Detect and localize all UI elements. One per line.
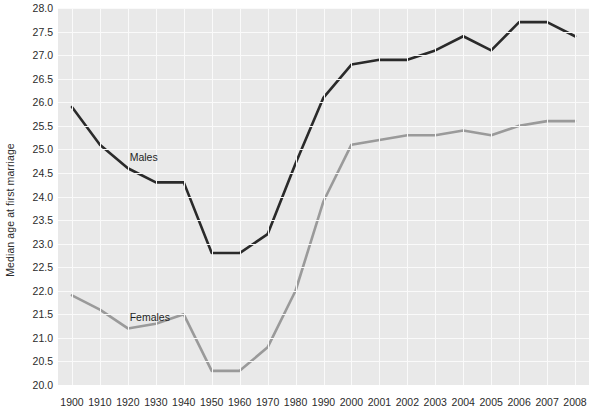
x-axis-tick-label: 1970 bbox=[256, 396, 279, 408]
y-axis-tick-labels: 28.027.527.026.526.025.525.024.524.023.5… bbox=[18, 0, 56, 420]
y-axis-tick-label: 22.5 bbox=[33, 261, 53, 273]
gridline-vertical bbox=[240, 8, 241, 385]
gridline-vertical bbox=[324, 8, 325, 385]
x-axis-tick-label: 1960 bbox=[228, 396, 251, 408]
gridline-vertical bbox=[547, 8, 548, 385]
y-axis-tick-label: 25.5 bbox=[33, 120, 53, 132]
gridline-vertical bbox=[519, 8, 520, 385]
gridline-vertical bbox=[268, 8, 269, 385]
gridline-vertical bbox=[575, 8, 576, 385]
gridline-vertical bbox=[491, 8, 492, 385]
gridline-vertical bbox=[463, 8, 464, 385]
y-axis-tick-label: 22.0 bbox=[33, 285, 53, 297]
x-axis-tick-labels: 1900191019201930194019501960197019801990… bbox=[58, 388, 589, 420]
gridline-vertical bbox=[212, 8, 213, 385]
y-axis-tick-label: 26.0 bbox=[33, 96, 53, 108]
gridline-vertical bbox=[407, 8, 408, 385]
y-axis-tick-label: 26.5 bbox=[33, 73, 53, 85]
x-axis-tick-label: 2000 bbox=[340, 396, 363, 408]
series-annotation-males: Males bbox=[130, 151, 158, 163]
y-axis-tick-label: 21.5 bbox=[33, 308, 53, 320]
gridline-vertical bbox=[435, 8, 436, 385]
y-axis-tick-label: 27.5 bbox=[33, 26, 53, 38]
x-axis-tick-label: 1990 bbox=[312, 396, 335, 408]
x-axis-tick-label: 2002 bbox=[396, 396, 419, 408]
y-axis-tick-label: 23.0 bbox=[33, 238, 53, 250]
x-axis-tick-label: 2001 bbox=[368, 396, 391, 408]
chart-root: Median age at first marriage 28.027.527.… bbox=[0, 0, 589, 420]
x-axis-tick-label: 1920 bbox=[116, 396, 139, 408]
gridline-vertical bbox=[379, 8, 380, 385]
x-axis-tick-label: 1910 bbox=[88, 396, 111, 408]
x-axis-tick-label: 2004 bbox=[452, 396, 475, 408]
x-axis-tick-label: 2008 bbox=[563, 396, 586, 408]
y-axis-tick-label: 25.0 bbox=[33, 143, 53, 155]
y-axis-tick-label: 24.5 bbox=[33, 167, 53, 179]
y-axis-tick-label: 23.5 bbox=[33, 214, 53, 226]
gridline-vertical bbox=[100, 8, 101, 385]
x-axis-tick-label: 1900 bbox=[60, 396, 83, 408]
y-axis-tick-label: 24.0 bbox=[33, 191, 53, 203]
x-axis-tick-label: 2007 bbox=[535, 396, 558, 408]
gridline-vertical bbox=[156, 8, 157, 385]
plot-area: MalesFemales bbox=[58, 8, 589, 385]
gridline-vertical bbox=[351, 8, 352, 385]
x-axis-tick-label: 1930 bbox=[144, 396, 167, 408]
x-axis-tick-label: 2005 bbox=[479, 396, 502, 408]
y-axis-tick-label: 20.5 bbox=[33, 355, 53, 367]
y-axis-title: Median age at first marriage bbox=[0, 0, 20, 420]
gridline-vertical bbox=[72, 8, 73, 385]
series-annotation-females: Females bbox=[130, 311, 170, 323]
y-axis-title-text: Median age at first marriage bbox=[4, 143, 16, 277]
x-axis-tick-label: 1940 bbox=[172, 396, 195, 408]
x-axis-tick-label: 2006 bbox=[507, 396, 530, 408]
x-axis-tick-label: 2003 bbox=[424, 396, 447, 408]
y-axis-tick-label: 20.0 bbox=[33, 379, 53, 391]
gridline-vertical bbox=[296, 8, 297, 385]
gridline-vertical bbox=[128, 8, 129, 385]
y-axis-tick-label: 27.0 bbox=[33, 49, 53, 61]
x-axis-tick-label: 1980 bbox=[284, 396, 307, 408]
x-axis-tick-label: 1950 bbox=[200, 396, 223, 408]
y-axis-tick-label: 28.0 bbox=[33, 2, 53, 14]
gridline-vertical bbox=[184, 8, 185, 385]
y-axis-tick-label: 21.0 bbox=[33, 332, 53, 344]
